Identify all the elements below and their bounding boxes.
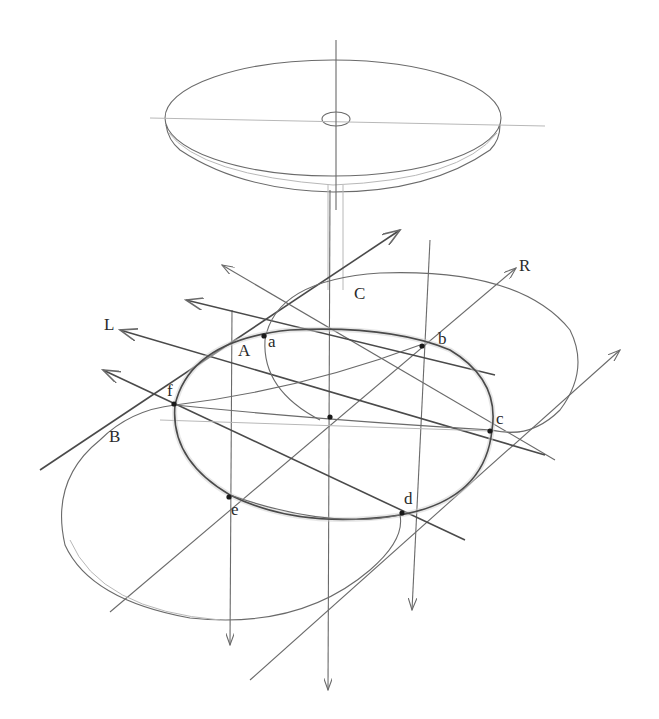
point-d xyxy=(399,510,404,515)
vertical-line-left xyxy=(230,310,232,645)
label-R: R xyxy=(519,257,530,274)
label-L: L xyxy=(104,316,114,333)
label-f: f xyxy=(167,382,173,399)
label-B: B xyxy=(109,428,120,445)
construction-drawing xyxy=(0,0,659,719)
horizontal-line xyxy=(160,420,520,432)
point-center xyxy=(327,414,332,419)
point-e xyxy=(226,494,231,499)
label-a: a xyxy=(268,333,276,350)
arrow-line-1 xyxy=(222,265,555,460)
label-A: A xyxy=(238,342,250,359)
point-b xyxy=(419,343,424,348)
top-disc xyxy=(150,40,545,290)
ellipse-central-A xyxy=(175,329,493,519)
label-d: d xyxy=(404,490,413,507)
label-e: e xyxy=(231,501,239,518)
axis-L xyxy=(120,330,545,455)
axis-R xyxy=(110,268,516,612)
point-c xyxy=(487,428,492,433)
label-c: c xyxy=(496,410,504,427)
label-b: b xyxy=(438,330,447,347)
point-a xyxy=(261,333,266,338)
point-f xyxy=(171,401,176,406)
label-C: C xyxy=(354,285,365,302)
